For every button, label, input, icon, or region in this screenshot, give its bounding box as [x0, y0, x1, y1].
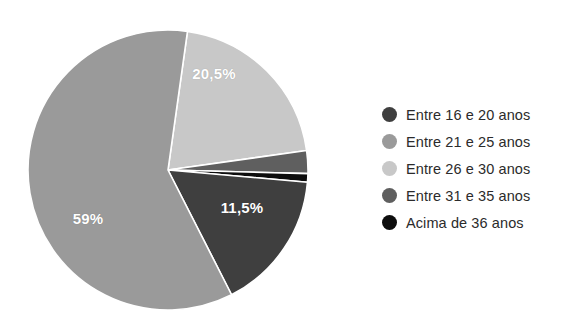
pie-chart-figure: 20,5%11,5%59% Entre 16 e 20 anosEntre 21…	[0, 0, 578, 334]
legend-item[interactable]: Entre 26 e 30 anos	[382, 155, 572, 182]
pie-plot-area: 20,5%11,5%59%	[0, 0, 360, 334]
pie-slice[interactable]	[168, 31, 307, 170]
pie-slice-value-label: 11,5%	[221, 199, 264, 216]
pie-svg	[0, 0, 360, 334]
legend-item-label: Entre 26 e 30 anos	[406, 161, 530, 177]
legend-swatch-circle-icon	[382, 188, 397, 203]
legend-item[interactable]: Entre 21 e 25 anos	[382, 128, 572, 155]
pie-slice-value-label: 59%	[73, 210, 104, 227]
legend-item[interactable]: Entre 31 e 35 anos	[382, 182, 572, 209]
legend-item[interactable]: Acima de 36 anos	[382, 209, 572, 236]
pie-slice-value-label: 20,5%	[192, 65, 236, 82]
chart-legend: Entre 16 e 20 anosEntre 21 e 25 anosEntr…	[382, 101, 572, 236]
legend-item-label: Acima de 36 anos	[406, 215, 524, 231]
legend-swatch-circle-icon	[382, 134, 397, 149]
legend-swatch-circle-icon	[382, 107, 397, 122]
legend-swatch-circle-icon	[382, 161, 397, 176]
legend-item-label: Entre 31 e 35 anos	[406, 188, 530, 204]
legend-item-label: Entre 16 e 20 anos	[406, 107, 530, 123]
legend-item[interactable]: Entre 16 e 20 anos	[382, 101, 572, 128]
legend-swatch-circle-icon	[382, 215, 397, 230]
legend-item-label: Entre 21 e 25 anos	[406, 134, 530, 150]
